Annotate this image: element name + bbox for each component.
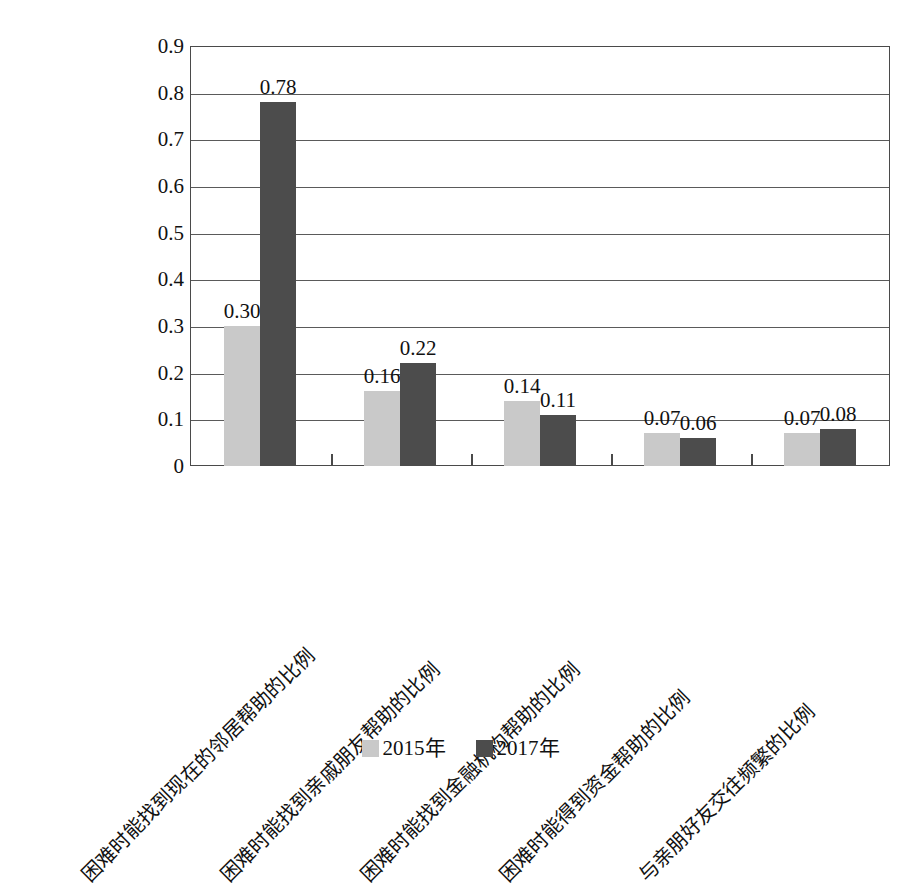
legend-swatch-icon — [476, 740, 493, 757]
y-axis-tick-label: 0.6 — [140, 176, 184, 197]
y-axis-tick-label: 0.2 — [140, 363, 184, 384]
x-axis-tick — [471, 454, 473, 465]
gridline — [191, 94, 889, 95]
y-axis-tick-label: 0.4 — [140, 269, 184, 290]
gridline — [191, 374, 889, 375]
gridline — [191, 140, 889, 141]
gridline — [191, 280, 889, 281]
y-axis-tick-label: 0.1 — [140, 409, 184, 430]
y-axis-labels: 0.90.80.70.60.50.40.30.20.10 — [134, 46, 184, 466]
legend-item[interactable]: 2017年 — [476, 738, 560, 759]
y-axis-tick-label: 0.5 — [140, 223, 184, 244]
y-axis-tick-label: 0.3 — [140, 316, 184, 337]
legend-swatch-icon — [362, 740, 379, 757]
x-axis-tick — [611, 454, 613, 465]
y-axis-tick-label: 0.9 — [140, 36, 184, 57]
x-axis-tick — [331, 454, 333, 465]
gridline — [191, 327, 889, 328]
plot-area — [190, 46, 890, 466]
legend-label: 2015年 — [383, 738, 446, 759]
gridline — [191, 234, 889, 235]
gridline — [191, 420, 889, 421]
gridline — [191, 187, 889, 188]
y-axis-tick-label: 0.7 — [140, 129, 184, 150]
x-axis-tick — [751, 454, 753, 465]
y-axis-tick-label: 0.8 — [140, 83, 184, 104]
chart-legend: 2015年2017年 — [0, 738, 921, 759]
legend-label: 2017年 — [497, 738, 560, 759]
category-labels: 困难时能找到现在的邻居帮助的比例困难时能找到亲戚朋友帮助的比例困难时能找到金融机… — [0, 466, 921, 731]
legend-item[interactable]: 2015年 — [362, 738, 446, 759]
